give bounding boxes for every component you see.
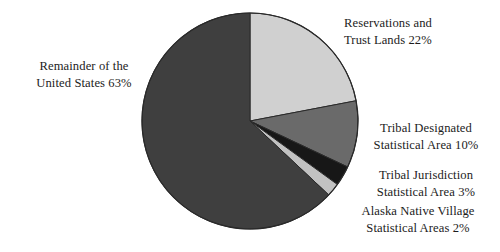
slice-label-line-2: United States 63%	[14, 75, 154, 92]
slice-label-remainder-of-the-united-states: Remainder of the United States 63%	[14, 58, 154, 92]
slice-label-tribal-designated-statistical-area: Tribal Designated Statistical Area 10%	[352, 120, 500, 154]
slice-label-line-1: Reservations and	[344, 15, 494, 32]
slice-label-line-1: Tribal Designated	[352, 120, 500, 137]
pie-chart: Remainder of the United States 63% Reser…	[0, 0, 500, 252]
slice-label-line-1: Alaska Native Village	[338, 203, 498, 220]
slice-label-line-2: Statistical Areas 2%	[338, 220, 498, 237]
slice-label-line-1: Tribal Jurisdiction	[352, 167, 500, 184]
pie-slice-group	[142, 13, 358, 229]
slice-label-line-2: Statistical Area 10%	[352, 137, 500, 154]
slice-label-line-2: Trust Lands 22%	[344, 32, 494, 49]
slice-label-line-2: Statistical Area 3%	[352, 184, 500, 201]
slice-label-tribal-jurisdiction-statistical-area: Tribal Jurisdiction Statistical Area 3%	[352, 167, 500, 201]
slice-label-reservations-and-trust-lands: Reservations and Trust Lands 22%	[344, 15, 494, 49]
slice-label-line-1: Remainder of the	[14, 58, 154, 75]
slice-label-alaska-native-village-statistical-areas: Alaska Native Village Statistical Areas …	[338, 203, 498, 237]
